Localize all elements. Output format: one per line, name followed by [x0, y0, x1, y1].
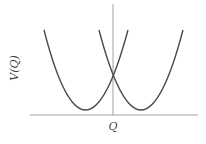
left-parabola-curve	[44, 30, 128, 110]
right-parabola-curve	[99, 30, 183, 110]
x-axis-label: Q	[108, 120, 117, 133]
potential-energy-diagram: V(Q) Q	[0, 0, 206, 144]
y-axis-label: V(Q)	[8, 55, 21, 81]
